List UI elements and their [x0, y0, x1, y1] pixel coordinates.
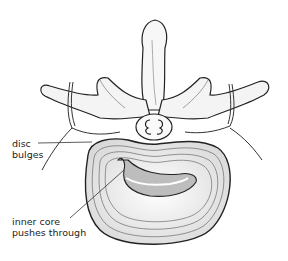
spinal-cord	[136, 114, 172, 140]
herniated-disc-illustration: disc bulges inner core pushes through	[0, 0, 288, 261]
spinous-process	[142, 20, 167, 110]
label-inner-core: inner core pushes through	[12, 216, 86, 238]
transverse-process-left	[41, 78, 150, 119]
transverse-process-right	[158, 78, 269, 119]
label-disc-bulges: disc bulges	[12, 138, 44, 160]
